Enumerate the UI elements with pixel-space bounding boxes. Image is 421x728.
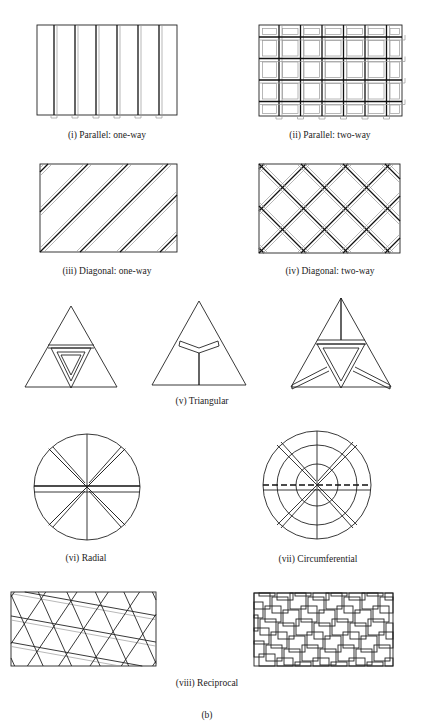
beam-edge [339,192,400,253]
reciprocal-panel [337,606,353,622]
beam-line [292,371,329,389]
reciprocal-panel [302,645,318,661]
reciprocal-panel [265,606,281,622]
slab-panel [304,84,320,100]
reciprocal-beam [11,592,46,644]
slab-panel [347,41,363,57]
beam-edge [339,164,400,225]
beam-end [218,341,219,346]
beam-edge [381,164,400,183]
reciprocal-panel [362,593,378,609]
reciprocal-panel [260,619,276,635]
reciprocal-beam [25,592,156,616]
slab-panel [347,105,363,114]
beam-edge [76,164,164,252]
slab-panel [390,29,400,35]
diagonal-beam [53,491,85,527]
slab-panel [326,84,342,100]
slab-outline [259,164,400,253]
reciprocal-beam [11,642,142,666]
beam-edge [124,199,177,252]
beam-edge [116,191,177,252]
reciprocal-panel [356,649,372,665]
reciprocal-panel [380,597,393,613]
reciprocal-beam [153,661,156,666]
slab-outline [259,25,402,116]
reciprocal-beam [11,595,43,666]
reciprocal-panel [295,593,311,596]
reciprocal-panel [338,645,354,661]
beam-edge [84,164,172,252]
caption-parallel-one-way: (i) Parallel: one-way [68,130,146,141]
inner-triangle [61,355,81,375]
slab-panel [369,105,385,114]
reciprocal-panel [326,593,342,609]
slab-panel [390,62,400,78]
panel-diagonal-two-way [259,164,400,253]
caption-reciprocal: (viii) Reciprocal [176,678,239,689]
reciprocal-panel [254,628,269,644]
reciprocal-panel [314,623,330,639]
diagonal-beam [40,164,128,252]
panel-parallel-one-way [37,25,177,118]
slab-panel [390,84,400,100]
slab-panel [263,41,277,57]
diagonal-beam [385,164,400,179]
reciprocal-panel [368,619,384,635]
reciprocal-panel [278,623,294,639]
slab-panel [263,84,277,100]
panel-circumferential [263,431,371,539]
beam-line [353,371,390,389]
reciprocal-panel [325,636,341,652]
panel-diagonal-one-way [40,164,177,252]
reciprocal-panel [355,610,371,626]
reciprocal-panel [254,593,270,609]
diagonal-beam [160,235,177,252]
reciprocal-panel [307,632,323,648]
reciprocal-beam [59,592,109,666]
reciprocal-panel [349,593,365,600]
reciprocal-panel [367,593,383,596]
beam-edge [40,164,44,168]
caption-triangular: (v) Triangular [175,396,229,407]
reciprocal-panel [385,658,393,666]
beam-edge [40,164,124,248]
slab-panel [263,62,277,78]
reciprocal-panel [344,597,360,613]
reciprocal-panel [272,597,288,613]
figure-label: (b) [201,710,212,721]
slab-panel [390,105,400,114]
reciprocal-panel [289,636,305,652]
reciprocal-panel [266,645,282,661]
slab-panel [263,29,277,35]
reciprocal-beam [27,592,77,666]
slab-panel [263,105,277,114]
slab-panel [347,84,363,100]
slab-panel [390,41,400,57]
slab-panel [283,29,299,35]
reciprocal-panel [343,632,359,648]
slab-panel [283,84,299,100]
diagonal-beam [80,164,168,252]
reciprocal-panel [385,593,393,600]
diagonal-beam [385,238,400,253]
reciprocal-beam [11,592,14,597]
beam-edge [44,164,132,252]
reciprocal-panel [386,623,393,639]
reciprocal-beam [90,592,140,666]
reciprocal-beam [11,658,15,666]
slab-panel [304,105,320,114]
slab-panel [304,41,320,57]
reciprocal-panel [301,606,317,622]
slab-panel [369,62,385,78]
panel-radial [34,434,140,540]
slab-outline [37,25,177,115]
beam-edge [40,164,84,208]
slab-panel [326,29,342,35]
slab-panel [347,29,363,35]
reciprocal-panel [259,593,275,596]
reciprocal-panel [296,619,312,635]
diagonal-beam [343,196,400,253]
panel-reciprocal [11,592,393,666]
slab-panel [347,62,363,78]
